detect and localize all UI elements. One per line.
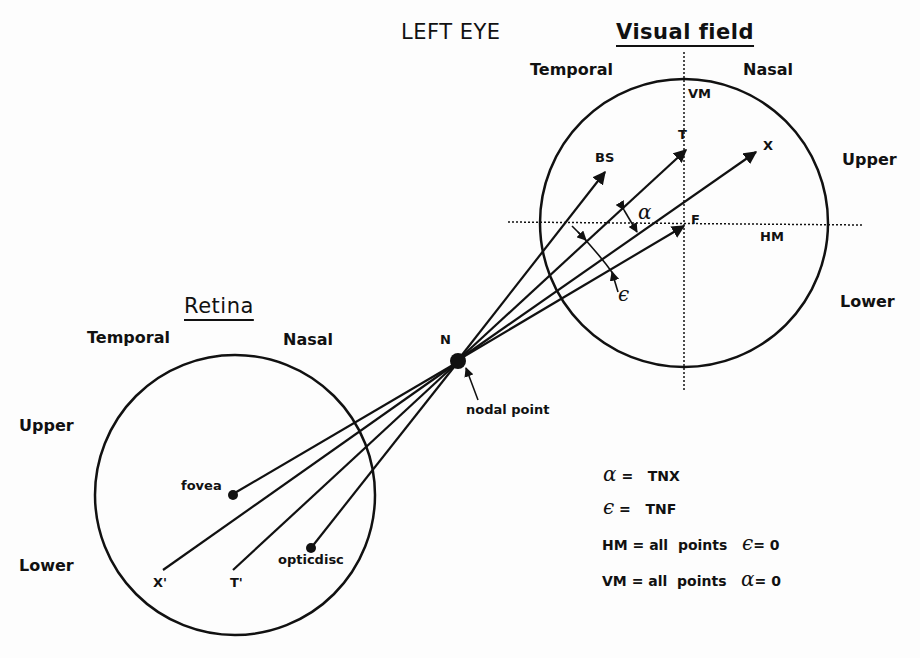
retina-nasal-label: Nasal	[283, 330, 333, 349]
retina-upper-label: Upper	[19, 416, 74, 435]
ray-t-prime	[233, 362, 458, 570]
legend-row-alpha: α = TNX	[603, 462, 680, 486]
ray-x-prime	[163, 362, 458, 570]
retina-temporal-label: Temporal	[87, 328, 170, 347]
nodal-point-label: nodal point	[466, 402, 549, 417]
vf-upper-label: Upper	[842, 150, 897, 169]
visual-field-title: Visual field	[616, 20, 754, 44]
point-t-label: T	[678, 127, 687, 142]
legend-row-vm: VM = all points α= 0	[602, 567, 781, 591]
retina-lower-label: Lower	[19, 556, 74, 575]
nodal-point-pointer	[466, 368, 478, 400]
vm-label: VM	[688, 86, 711, 101]
legend-row-epsilon: ϵ = TNF	[603, 495, 676, 519]
horizontal-meridian-line	[508, 222, 862, 225]
point-x-label: X	[763, 138, 773, 153]
vf-lower-label: Lower	[840, 292, 895, 311]
t-prime-label: T'	[230, 575, 243, 590]
optic-disc-label: opticdisc	[278, 552, 344, 567]
ray-optic-disc	[311, 362, 458, 548]
x-prime-label: X'	[153, 575, 167, 590]
fovea-label: fovea	[181, 478, 222, 493]
nodal-point-dot	[450, 353, 466, 369]
legend-row-hm: HM = all points ϵ= 0	[602, 531, 780, 555]
left-eye-title: LEFT EYE	[401, 20, 501, 44]
vf-nasal-label: Nasal	[743, 60, 793, 79]
nodal-n-label: N	[440, 332, 451, 347]
point-f-label: F	[691, 212, 700, 227]
hm-label: HM	[760, 229, 784, 244]
vf-temporal-label: Temporal	[530, 60, 613, 79]
alpha-arrow	[624, 210, 637, 232]
retina-title: Retina	[184, 294, 254, 318]
ray-t	[458, 150, 686, 360]
ray-x	[458, 152, 756, 360]
epsilon-symbol: ϵ	[618, 282, 629, 306]
fovea-dot	[228, 490, 238, 500]
point-bs-label: BS	[595, 150, 614, 165]
alpha-symbol: α	[638, 200, 652, 224]
ray-bs	[458, 172, 605, 360]
ray-f	[458, 226, 684, 360]
ray-fovea	[233, 362, 458, 494]
